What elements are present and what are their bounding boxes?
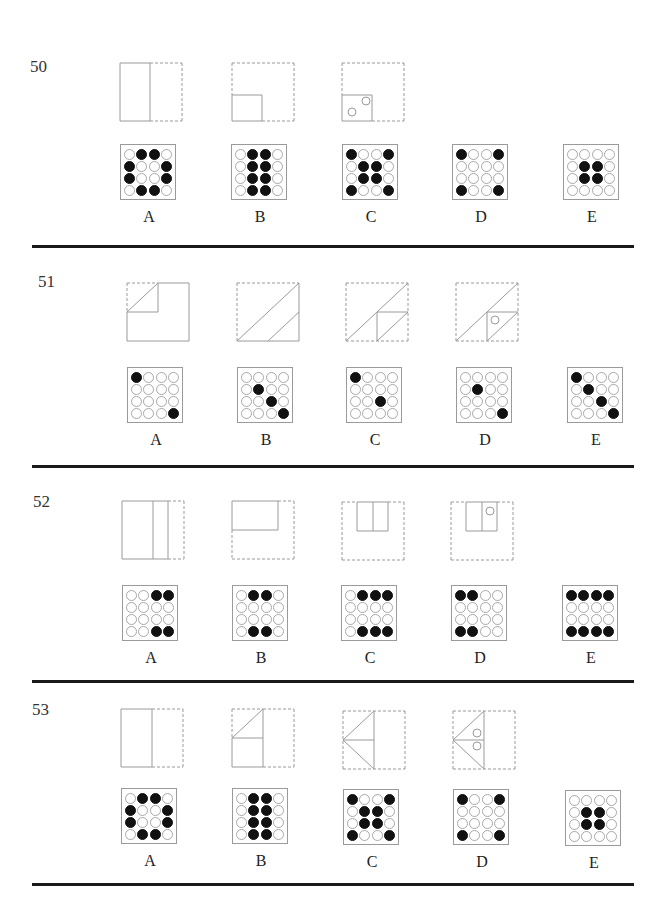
fold-diagram	[453, 711, 515, 769]
fold-diagram	[342, 63, 404, 121]
empty-dot-icon	[136, 173, 147, 184]
empty-dot-icon	[150, 805, 161, 816]
option-a[interactable]: A	[127, 367, 185, 449]
empty-dot-icon	[383, 173, 394, 184]
fold-step-3	[343, 711, 405, 769]
empty-dot-icon	[372, 830, 383, 841]
empty-dot-icon	[143, 372, 154, 383]
filled-dot-icon	[247, 149, 258, 160]
empty-dot-icon	[272, 173, 283, 184]
option-d[interactable]: D	[453, 789, 511, 871]
empty-dot-icon	[382, 602, 393, 613]
option-b[interactable]: B	[237, 367, 295, 449]
empty-dot-icon	[162, 829, 173, 840]
empty-dot-icon	[162, 793, 173, 804]
empty-dot-icon	[273, 614, 284, 625]
empty-dot-icon	[578, 614, 589, 625]
filled-dot-icon	[494, 830, 505, 841]
fold-step-3	[342, 63, 404, 121]
empty-dot-icon	[362, 396, 373, 407]
empty-dot-icon	[481, 173, 492, 184]
empty-dot-icon	[468, 185, 479, 196]
empty-dot-icon	[455, 602, 466, 613]
empty-dot-icon	[138, 626, 149, 637]
option-e[interactable]: E	[562, 585, 620, 667]
option-e[interactable]: E	[567, 367, 625, 449]
empty-dot-icon	[273, 829, 284, 840]
empty-dot-icon	[253, 408, 264, 419]
empty-dot-icon	[131, 396, 142, 407]
option-b[interactable]: B	[232, 788, 290, 870]
option-c[interactable]: C	[343, 789, 401, 871]
fold-step-4	[456, 283, 518, 341]
empty-dot-icon	[345, 590, 356, 601]
empty-dot-icon	[604, 149, 615, 160]
empty-dot-icon	[272, 185, 283, 196]
dot-grid	[231, 144, 287, 200]
empty-dot-icon	[138, 590, 149, 601]
option-label: E	[562, 649, 620, 667]
empty-dot-icon	[241, 384, 252, 395]
filled-dot-icon	[566, 590, 577, 601]
empty-dot-icon	[350, 396, 361, 407]
filled-dot-icon	[383, 149, 394, 160]
filled-dot-icon	[583, 384, 594, 395]
empty-dot-icon	[604, 185, 615, 196]
option-a[interactable]: A	[122, 585, 180, 667]
filled-dot-icon	[350, 372, 361, 383]
option-d[interactable]: D	[452, 144, 510, 226]
dot-grid	[453, 789, 509, 845]
empty-dot-icon	[350, 384, 361, 395]
filled-dot-icon	[493, 185, 504, 196]
fold-diagram	[342, 502, 404, 560]
empty-dot-icon	[359, 794, 370, 805]
option-label: C	[346, 431, 404, 449]
empty-dot-icon	[266, 372, 277, 383]
empty-dot-icon	[149, 173, 160, 184]
option-c[interactable]: C	[346, 367, 404, 449]
empty-dot-icon	[346, 161, 357, 172]
empty-dot-icon	[581, 795, 592, 806]
empty-dot-icon	[485, 372, 496, 383]
empty-dot-icon	[375, 384, 386, 395]
empty-dot-icon	[156, 408, 167, 419]
empty-dot-icon	[472, 372, 483, 383]
option-e[interactable]: E	[565, 790, 623, 872]
question-number: 52	[33, 492, 50, 512]
option-e[interactable]: E	[563, 144, 621, 226]
option-label: A	[122, 649, 180, 667]
option-a[interactable]: A	[121, 788, 179, 870]
option-c[interactable]: C	[341, 585, 399, 667]
empty-dot-icon	[606, 819, 617, 830]
empty-dot-icon	[468, 149, 479, 160]
empty-dot-icon	[469, 830, 480, 841]
empty-dot-icon	[161, 149, 172, 160]
empty-dot-icon	[347, 806, 358, 817]
empty-dot-icon	[347, 818, 358, 829]
filled-dot-icon	[347, 794, 358, 805]
empty-dot-icon	[248, 602, 259, 613]
option-b[interactable]: B	[232, 585, 290, 667]
empty-dot-icon	[273, 602, 284, 613]
filled-dot-icon	[382, 590, 393, 601]
option-a[interactable]: A	[120, 144, 178, 226]
filled-dot-icon	[608, 408, 619, 419]
dot-grid	[127, 367, 183, 423]
option-d[interactable]: D	[456, 367, 514, 449]
filled-dot-icon	[248, 793, 259, 804]
filled-dot-icon	[591, 626, 602, 637]
dot-grid	[562, 585, 618, 641]
option-b[interactable]: B	[231, 144, 289, 226]
empty-dot-icon	[345, 602, 356, 613]
filled-dot-icon	[456, 185, 467, 196]
empty-dot-icon	[604, 173, 615, 184]
option-d[interactable]: D	[451, 585, 509, 667]
dot-grid	[342, 144, 398, 200]
empty-dot-icon	[126, 614, 137, 625]
empty-dot-icon	[235, 185, 246, 196]
filled-dot-icon	[455, 626, 466, 637]
filled-dot-icon	[359, 818, 370, 829]
option-label: A	[120, 208, 178, 226]
empty-dot-icon	[472, 408, 483, 419]
option-c[interactable]: C	[342, 144, 400, 226]
